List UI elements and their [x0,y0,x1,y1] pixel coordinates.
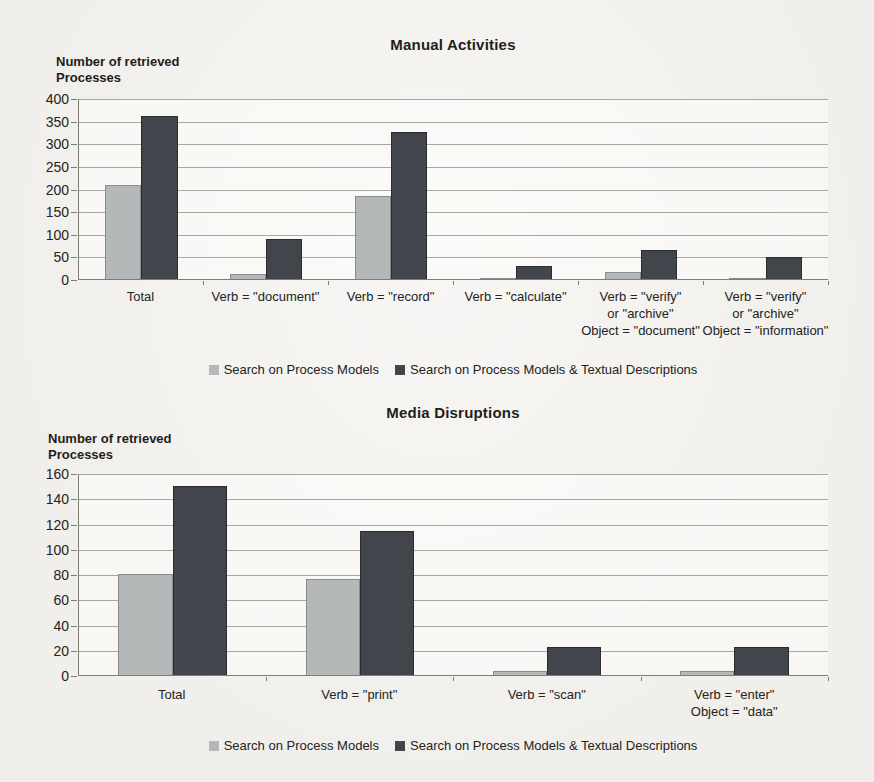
y-tick-label: 140 [29,491,69,507]
y-tick-mark [71,550,77,551]
x-axis-tick [453,677,454,681]
x-axis-tick [828,677,829,681]
y-tick-mark [71,626,77,627]
y-tick-label: 60 [29,592,69,608]
category-label: Total [92,687,252,704]
category-group [79,474,266,675]
bar-groups [79,474,828,675]
y-tick-mark [71,575,77,576]
y-tick-label: 40 [29,618,69,634]
legend-swatch-process-models [209,741,219,751]
y-axis-label: Number of retrieved Processes [48,431,172,463]
y-tick-mark [71,499,77,500]
chart-title: Media Disruptions [78,404,828,421]
legend: Search on Process ModelsSearch on Proces… [78,738,828,753]
x-axis-tick [641,677,642,681]
category-group [454,474,641,675]
y-tick-mark [71,676,77,677]
category-label: Verb = "scan" [467,687,627,704]
bar-process-models [493,671,547,675]
y-tick-label: 20 [29,643,69,659]
category-label: Verb = "enter" Object = "data" [654,687,814,721]
y-tick-label: 120 [29,517,69,533]
y-tick-label: 100 [29,542,69,558]
bar-models-and-text [734,647,788,675]
x-axis-tick [266,677,267,681]
y-tick-mark [71,651,77,652]
legend-swatch-models-and-text [395,741,405,751]
legend-label: Search on Process Models [224,738,379,753]
scanned-figure-page: Manual ActivitiesNumber of retrieved Pro… [0,0,874,782]
category-group [641,474,828,675]
y-tick-mark [71,474,77,475]
y-tick-mark [71,525,77,526]
legend-item: Search on Process Models [209,738,379,753]
bar-process-models [306,579,360,675]
legend-item: Search on Process Models & Textual Descr… [395,738,697,753]
y-tick-mark [71,600,77,601]
bar-models-and-text [173,486,227,675]
bar-process-models [680,671,734,675]
bar-models-and-text [360,531,414,675]
category-label: Verb = "print" [279,687,439,704]
y-tick-label: 80 [29,567,69,583]
category-group [266,474,453,675]
legend-label: Search on Process Models & Textual Descr… [410,738,697,753]
media-disruptions-chart: Media DisruptionsNumber of retrieved Pro… [0,0,874,782]
y-tick-label: 0 [29,668,69,684]
plot-area [78,474,828,676]
y-tick-label: 160 [29,466,69,482]
bar-models-and-text [547,647,601,675]
bar-process-models [118,574,172,675]
